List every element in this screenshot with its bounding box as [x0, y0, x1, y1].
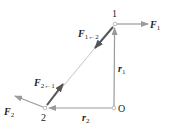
vector-r1-arrow — [114, 28, 115, 106]
r2-label: r2 — [82, 112, 90, 125]
r1-label: r1 — [118, 63, 126, 76]
F2-label-sub: 2 — [11, 111, 15, 119]
F1-from-2-label-sub: 1←2 — [85, 33, 100, 41]
origin-label: O — [118, 103, 125, 114]
F1-label: F1 — [149, 19, 161, 32]
r2-label-sub: 2 — [86, 117, 90, 125]
r1-label-sub: 1 — [122, 68, 126, 76]
origin-dot — [112, 106, 116, 110]
point-1-dot — [113, 22, 117, 26]
F1-from-2-label: F1←2 — [77, 28, 99, 41]
vector-F2-arrow — [15, 96, 43, 107]
point-1-label: 1 — [112, 8, 117, 19]
point-2-dot — [43, 106, 47, 110]
force-diagram: 1 2 O F1 F2 F1←2 F2←1 r1 r2 — [0, 0, 169, 131]
F1-label-sub: 1 — [157, 24, 161, 32]
F2-label: F2 — [3, 106, 15, 119]
point-2-label: 2 — [41, 112, 46, 123]
F2-from-1-label-sub: 2←1 — [41, 82, 56, 90]
F2-from-1-label: F2←1 — [33, 77, 55, 90]
